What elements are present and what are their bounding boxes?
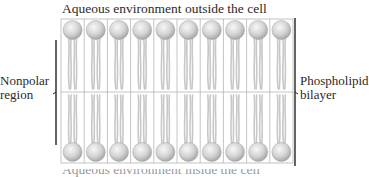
- lipid-tail: [215, 95, 216, 146]
- polar-head: [63, 143, 82, 162]
- lipid-tail: [238, 95, 239, 146]
- lipid-tail: [99, 38, 100, 89]
- lipid-tail: [99, 95, 100, 146]
- lipid-tail: [236, 38, 237, 89]
- lipid-tail: [285, 95, 286, 146]
- phospholipid-outer: [133, 21, 152, 90]
- lipid-tail: [215, 38, 216, 89]
- lipid-tail: [138, 38, 139, 89]
- polar-head: [226, 21, 245, 40]
- polar-head: [63, 21, 82, 40]
- lipid-tail: [277, 38, 278, 89]
- phospholipid-outer: [202, 21, 221, 90]
- phospholipid-outer: [249, 21, 268, 90]
- polar-head: [156, 21, 175, 40]
- phospholipid-outer: [179, 21, 198, 90]
- lipid-tail: [190, 95, 191, 146]
- lipid-tail: [283, 38, 284, 89]
- nonpolar-region-bracket: [53, 40, 56, 145]
- polar-head: [86, 21, 105, 40]
- lipid-tail: [167, 38, 168, 89]
- phospholipid-inner: [133, 95, 152, 162]
- lipid-tail: [92, 38, 93, 89]
- lipid-tail: [208, 95, 209, 146]
- lipid-tail: [144, 38, 145, 89]
- polar-head: [110, 143, 129, 162]
- phospholipid-outer: [156, 21, 175, 90]
- lipid-tail: [254, 38, 255, 89]
- lipid-tail: [256, 95, 257, 146]
- phospholipid-outer: [110, 21, 129, 90]
- phospholipid-inner: [249, 95, 268, 162]
- lipid-tail: [260, 95, 261, 146]
- lipid-tail: [187, 95, 188, 146]
- lipid-tail: [208, 38, 209, 89]
- polar-head: [133, 21, 152, 40]
- polar-head: [156, 143, 175, 162]
- lipid-tail: [262, 95, 263, 146]
- lipid-tail: [163, 38, 164, 89]
- polar-head: [179, 21, 198, 40]
- phospholipid-outer: [272, 21, 291, 90]
- phospholipid-inner: [272, 95, 291, 162]
- lipid-tail: [254, 95, 255, 146]
- lipid-tail: [146, 38, 147, 89]
- lipid-tail: [184, 95, 185, 146]
- lipid-tail: [140, 38, 141, 89]
- polar-head: [86, 143, 105, 162]
- lipid-tail: [115, 95, 116, 146]
- polar-head: [202, 21, 221, 40]
- phospholipid-inner: [179, 95, 198, 162]
- lipid-tail: [97, 38, 98, 89]
- lipid-tail: [117, 95, 118, 146]
- lipid-tail: [169, 95, 170, 146]
- lipid-tail: [122, 38, 123, 89]
- lipid-tail: [238, 38, 239, 89]
- lipid-tail: [76, 38, 77, 89]
- lipid-tail: [74, 95, 75, 146]
- lipid-tail: [192, 38, 193, 89]
- lipid-tail: [285, 38, 286, 89]
- lipid-tail: [146, 95, 147, 146]
- lipid-tail: [231, 38, 232, 89]
- phospholipid-inner: [63, 95, 82, 162]
- lipid-tail: [92, 95, 93, 146]
- lipid-tail: [74, 38, 75, 89]
- lipid-tail: [161, 95, 162, 146]
- polar-head: [272, 21, 291, 40]
- bilayer-bracket: [295, 18, 298, 166]
- lipid-tail: [256, 38, 257, 89]
- lipid-tail: [140, 95, 141, 146]
- polar-head: [226, 143, 245, 162]
- lipid-tail: [122, 95, 123, 146]
- phospholipid-inner: [86, 95, 105, 162]
- polar-head: [110, 21, 129, 40]
- lipid-tail: [115, 38, 116, 89]
- lipid-tail: [210, 38, 211, 89]
- lipid-tail: [210, 95, 211, 146]
- polar-head: [249, 143, 268, 162]
- lipid-tail: [213, 38, 214, 89]
- polar-head: [133, 143, 152, 162]
- lipid-tail: [117, 38, 118, 89]
- lipid-tail: [94, 95, 95, 146]
- lipid-tail: [163, 95, 164, 146]
- lipid-tail: [277, 95, 278, 146]
- lipid-tail: [71, 95, 72, 146]
- lipid-tail: [233, 38, 234, 89]
- lipid-tail: [283, 95, 284, 146]
- lipid-tail: [190, 38, 191, 89]
- bilayer-grid: [61, 19, 293, 163]
- lipid-tail: [260, 38, 261, 89]
- lipid-tail: [236, 95, 237, 146]
- lipid-tail: [68, 95, 69, 146]
- lipid-tail: [76, 95, 77, 146]
- phospholipid-outer: [86, 21, 105, 90]
- lipid-tail: [192, 95, 193, 146]
- lipid-tail: [262, 38, 263, 89]
- lipid-tail: [187, 38, 188, 89]
- polar-head: [202, 143, 221, 162]
- lipid-tail: [68, 38, 69, 89]
- phospholipid-inner: [110, 95, 129, 162]
